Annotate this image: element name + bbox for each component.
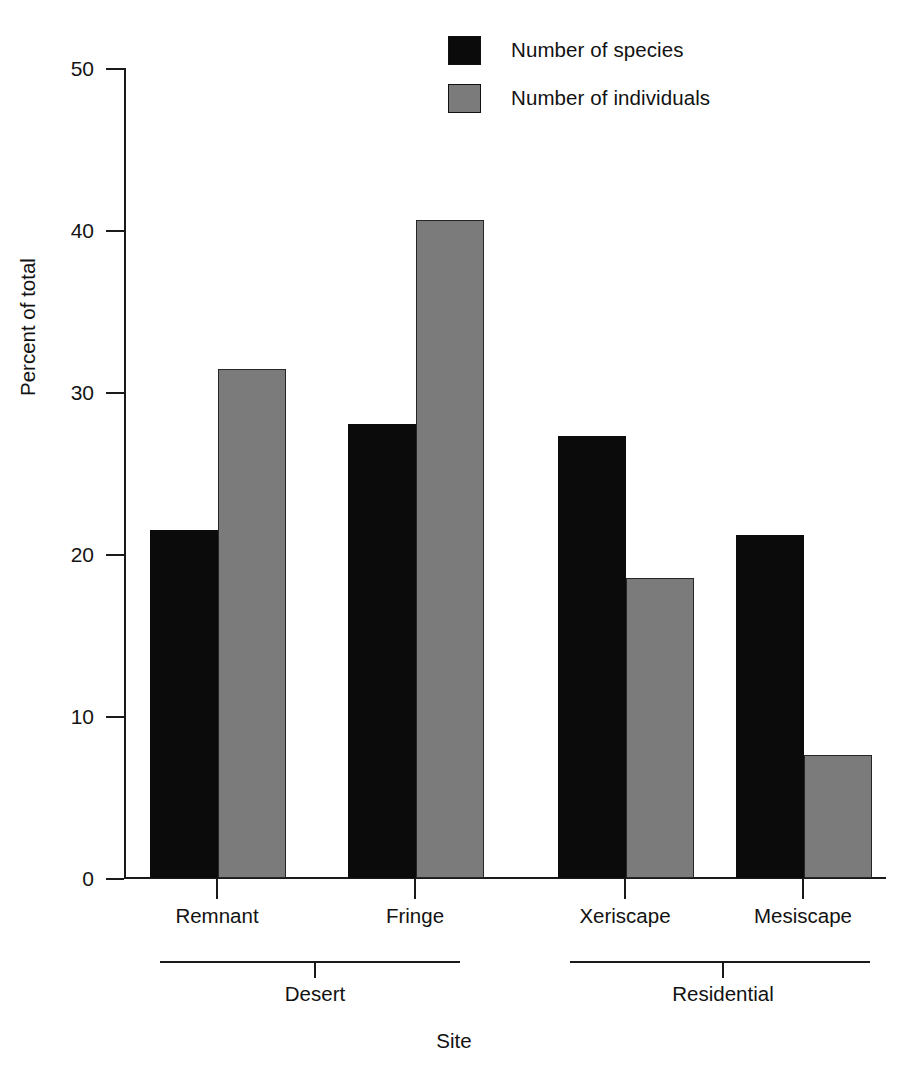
x-tick-fringe [414, 879, 416, 899]
y-tick-30: 30 [106, 392, 124, 394]
y-axis-title: Percent of total [16, 258, 40, 396]
x-axis-label-mesiscape: Mesiscape [754, 904, 852, 928]
y-tick-0: 0 [106, 878, 124, 880]
legend-item-species: Number of species [448, 32, 788, 68]
bar-fringe-individuals [416, 220, 484, 878]
y-tick-label-0: 0 [82, 867, 94, 891]
y-tick-40: 40 [106, 230, 124, 232]
y-axis-line [124, 68, 126, 878]
bar-xeriscape-species [558, 436, 626, 878]
y-tick-label-50: 50 [71, 57, 94, 81]
legend-swatch-species-icon [448, 36, 481, 65]
bar-fringe-species [348, 424, 416, 878]
bar-remnant-individuals [218, 369, 286, 878]
y-tick-label-30: 30 [71, 381, 94, 405]
x-tick-mesiscape [802, 879, 804, 899]
group-label-residential: Residential [672, 982, 773, 1006]
y-tick-50: 50 [106, 68, 124, 70]
x-tick-remnant [216, 879, 218, 899]
y-tick-20: 20 [106, 554, 124, 556]
x-axis-label-xeriscape: Xeriscape [579, 904, 670, 928]
x-axis-title: Site [436, 1029, 471, 1053]
x-tick-xeriscape [624, 879, 626, 899]
group-tick-desert [314, 962, 316, 978]
bar-remnant-species [150, 530, 218, 878]
group-tick-residential [722, 962, 724, 978]
y-tick-label-10: 10 [71, 705, 94, 729]
x-axis-label-fringe: Fringe [386, 904, 444, 928]
group-label-desert: Desert [285, 982, 345, 1006]
bar-mesiscape-species [736, 535, 804, 878]
bar-chart-figure: Number of species Number of individuals … [0, 0, 908, 1089]
bar-xeriscape-individuals [626, 578, 694, 878]
legend-label-species: Number of species [511, 38, 684, 62]
y-tick-label-40: 40 [71, 219, 94, 243]
x-axis-label-remnant: Remnant [175, 904, 258, 928]
group-rule-desert [160, 961, 460, 963]
group-rule-residential [570, 961, 870, 963]
plot-area: 50 40 30 20 10 0 [124, 68, 886, 878]
y-tick-label-20: 20 [71, 543, 94, 567]
y-tick-10: 10 [106, 716, 124, 718]
bar-mesiscape-individuals [804, 755, 872, 878]
